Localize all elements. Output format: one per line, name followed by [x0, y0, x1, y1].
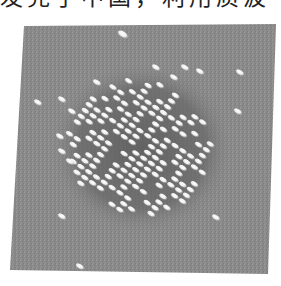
stm-atom-image	[0, 0, 281, 286]
stm-panel	[0, 0, 281, 286]
